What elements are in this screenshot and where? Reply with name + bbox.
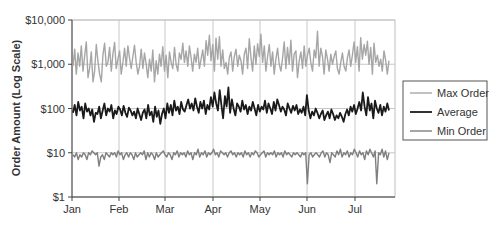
chart: $10,000$1,000$100$10$1 JanFebMarAprMayJu… [0, 0, 499, 226]
x-tick-label: Feb [110, 203, 129, 215]
y-tick-label: $1,000 [31, 58, 65, 70]
x-tick-label: Jan [63, 203, 81, 215]
legend-label: Average [437, 106, 478, 118]
legend-label: Min Order [437, 125, 486, 137]
y-axis: $10,000$1,000$100$10$1 [25, 14, 72, 203]
series-line-min-order [73, 149, 389, 184]
x-tick-label: May [250, 203, 271, 215]
y-tick-label: $1 [53, 191, 65, 203]
y-tick-label: $10 [47, 147, 65, 159]
series-line-average [73, 87, 389, 123]
x-tick-label: Mar [156, 203, 175, 215]
x-tick-label: Jun [298, 203, 316, 215]
x-tick-label: Jul [348, 203, 362, 215]
series-lines [73, 31, 389, 184]
y-tick-label: $100 [41, 103, 65, 115]
legend: Max OrderAverageMin Order [403, 81, 489, 140]
x-tick-label: Apr [204, 203, 221, 215]
series-line-max-order [73, 31, 389, 82]
x-axis: JanFebMarAprMayJunJul [63, 197, 395, 215]
y-axis-title: Order Amount (Log Scale) [10, 39, 22, 176]
y-tick-label: $10,000 [25, 14, 65, 26]
legend-label: Max Order [437, 87, 489, 99]
